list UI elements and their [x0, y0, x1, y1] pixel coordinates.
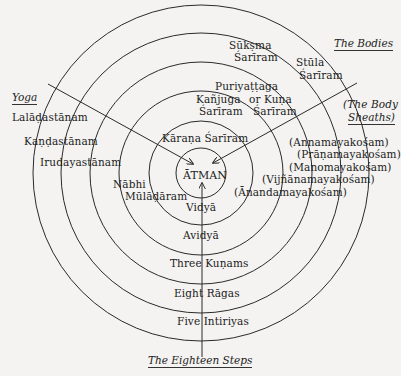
sheath-item: (Manomayakośam): [289, 162, 392, 173]
body-suksma-2: Śarīram: [234, 52, 278, 63]
sheath-item: (Annamayakośam): [289, 137, 389, 148]
header-yoga: Yoga: [12, 91, 37, 105]
sheath-item: (Vijñānamayakośam): [262, 174, 375, 185]
header-sheaths-line1: (The Body: [343, 99, 398, 110]
yoga-item: Nābhi: [113, 179, 146, 190]
step-item: Vidyā: [186, 202, 216, 213]
body-stula-2: Śarīram: [299, 70, 343, 81]
sheath-item: (Prāṇamayakośam): [297, 149, 401, 160]
yoga-item: Lalāḍastānam: [12, 112, 88, 123]
body-suksma-1: Sūkṣma: [229, 40, 272, 51]
yoga-item: Irudayastānam: [40, 157, 121, 168]
body-kanjuga-2: Śarīram: [199, 106, 243, 117]
step-item: Three Kuṇams: [170, 258, 249, 269]
yoga-item: Kaṇḍastānam: [24, 136, 98, 147]
header-eighteen-steps: The Eighteen Steps: [148, 354, 252, 368]
step-item: Avidyā: [183, 230, 219, 241]
center-atman: ĀTMAN: [183, 170, 227, 181]
step-item: Five Intiriyas: [177, 316, 249, 327]
header-sheaths-line2: Sheaths): [348, 111, 395, 125]
step-item: Eight Rāgas: [174, 288, 240, 299]
body-kuna-1: or Kuṇa: [249, 94, 292, 105]
header-bodies: The Bodies: [334, 37, 393, 51]
sheath-item: (Ānandamayakośam): [234, 187, 347, 198]
body-kuna-2: Śarīram: [253, 106, 297, 117]
body-puriyattaga: Puriyaṭṭaga: [215, 81, 278, 92]
body-stula-1: Stūla: [296, 57, 324, 68]
body-karana: Kāraṇa Śarīram: [162, 133, 248, 144]
body-kanjuga-1: Kañjuga: [196, 94, 241, 105]
yoga-item: Mūlāḍāram: [125, 191, 187, 202]
